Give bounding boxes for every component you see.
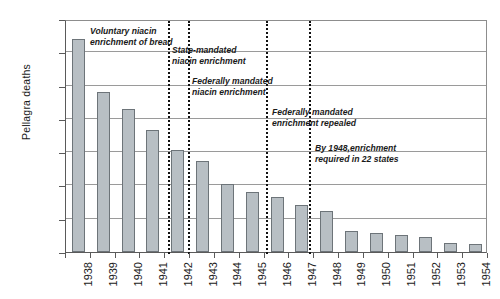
- bar-1951: [395, 235, 408, 252]
- bar-1948: [320, 211, 333, 252]
- x-tick-mark-10: [313, 253, 314, 258]
- x-tick-mark-14: [413, 253, 414, 258]
- annotation-voluntary-niacin: Voluntary niacin enrichment of bread: [90, 26, 173, 47]
- x-tick-mark-7: [239, 253, 240, 258]
- x-tick-mark-4: [164, 253, 165, 258]
- x-tick-mark-3: [139, 253, 140, 258]
- pellagra-deaths-bar-chart: Pellagra deaths 050010001500200025003000…: [0, 0, 500, 299]
- x-tick-label-1944: 1944: [231, 262, 243, 286]
- bar-1938: [72, 39, 85, 252]
- x-tick-mark-9: [288, 253, 289, 258]
- annotation-federally-mandated: Federally mandated niacin enrichment: [192, 76, 273, 97]
- x-tick-label-1943: 1943: [207, 262, 219, 286]
- x-tick-label-1951: 1951: [405, 262, 417, 286]
- x-tick-mark-13: [388, 253, 389, 258]
- x-tick-label-1949: 1949: [355, 262, 367, 286]
- annotation-state-mandated: State-mandated niacin enrichment: [172, 45, 246, 66]
- bar-1940: [122, 109, 135, 252]
- bar-1941: [146, 130, 159, 252]
- bar-1945: [246, 192, 259, 252]
- annotation-by-1948-22-states: By 1948,enrichment required in 22 states: [315, 143, 399, 164]
- y-axis-title: Pellagra deaths: [20, 32, 32, 172]
- x-tick-label-1939: 1939: [107, 262, 119, 286]
- x-tick-mark-16: [462, 253, 463, 258]
- bar-1944: [221, 184, 234, 252]
- x-tick-label-1954: 1954: [480, 262, 492, 286]
- x-tick-label-1946: 1946: [281, 262, 293, 286]
- bar-1942: [171, 150, 184, 252]
- bar-1954: [469, 244, 482, 252]
- x-tick-mark-15: [437, 253, 438, 258]
- x-tick-label-1940: 1940: [132, 262, 144, 286]
- event-line-1946: [266, 21, 268, 254]
- x-tick-mark-12: [363, 253, 364, 258]
- x-tick-mark-0: [65, 253, 66, 258]
- bar-1946: [271, 197, 284, 252]
- x-tick-mark-1: [90, 253, 91, 258]
- x-tick-label-1947: 1947: [306, 262, 318, 286]
- x-tick-label-1942: 1942: [182, 262, 194, 286]
- bar-1949: [345, 231, 358, 252]
- bar-1943: [196, 161, 209, 252]
- bar-1947: [295, 205, 308, 252]
- annotation-enrichment-repealed: Federally mandated enrichment repealed: [272, 107, 356, 128]
- bar-1950: [370, 233, 383, 252]
- gridline-2500: [66, 85, 486, 86]
- x-tick-mark-6: [214, 253, 215, 258]
- x-tick-label-1948: 1948: [331, 262, 343, 286]
- x-tick-label-1953: 1953: [455, 262, 467, 286]
- x-tick-label-1938: 1938: [82, 262, 94, 286]
- plot-area: Voluntary niacin enrichment of breadStat…: [65, 20, 487, 253]
- x-tick-label-1941: 1941: [157, 262, 169, 286]
- x-tick-label-1952: 1952: [430, 262, 442, 286]
- x-tick-mark-5: [189, 253, 190, 258]
- event-line-1948: [309, 21, 311, 254]
- x-tick-mark-end: [487, 253, 488, 258]
- x-tick-label-1945: 1945: [256, 262, 268, 286]
- bar-1939: [97, 92, 110, 252]
- gridline-3000: [66, 51, 486, 52]
- x-tick-mark-2: [115, 253, 116, 258]
- x-tick-mark-8: [264, 253, 265, 258]
- x-tick-label-1950: 1950: [380, 262, 392, 286]
- event-line-1942a: [168, 21, 170, 254]
- x-tick-mark-11: [338, 253, 339, 258]
- bar-1952: [419, 237, 432, 252]
- bar-1953: [444, 243, 457, 252]
